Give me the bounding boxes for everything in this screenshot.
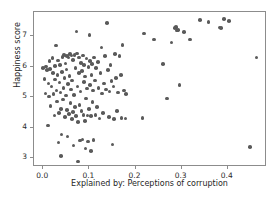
data-point bbox=[110, 79, 114, 83]
data-point bbox=[98, 117, 102, 121]
data-point bbox=[63, 76, 67, 80]
data-point bbox=[112, 117, 116, 121]
data-point bbox=[97, 86, 101, 90]
data-point bbox=[119, 73, 123, 77]
data-point bbox=[71, 58, 75, 62]
data-point bbox=[198, 18, 202, 22]
data-point bbox=[82, 63, 86, 67]
data-point bbox=[121, 43, 125, 47]
data-point bbox=[106, 68, 110, 72]
data-point bbox=[111, 143, 115, 147]
y-tick-mark bbox=[30, 127, 33, 128]
data-point bbox=[58, 63, 62, 67]
data-point bbox=[64, 94, 68, 98]
data-point bbox=[116, 91, 120, 95]
y-tick-mark bbox=[30, 157, 33, 158]
data-point bbox=[82, 113, 86, 117]
data-point bbox=[59, 154, 63, 158]
data-point bbox=[94, 66, 98, 70]
data-point bbox=[51, 56, 55, 60]
data-point bbox=[80, 69, 84, 73]
data-point bbox=[74, 66, 78, 70]
data-point bbox=[222, 17, 226, 21]
data-point bbox=[93, 79, 97, 83]
data-point bbox=[91, 89, 95, 93]
data-points-layer bbox=[34, 12, 265, 165]
data-point bbox=[99, 71, 103, 75]
data-point bbox=[72, 144, 76, 148]
data-point bbox=[92, 56, 96, 60]
data-point bbox=[73, 105, 77, 109]
data-point bbox=[227, 19, 231, 23]
data-point bbox=[94, 113, 98, 117]
x-tick-mark bbox=[88, 166, 89, 169]
data-point bbox=[67, 112, 71, 116]
data-point bbox=[89, 114, 93, 118]
plot-area bbox=[33, 11, 266, 166]
data-point bbox=[178, 83, 182, 87]
data-point bbox=[86, 140, 90, 144]
data-point bbox=[90, 62, 94, 66]
data-point bbox=[105, 21, 109, 25]
data-point bbox=[124, 92, 128, 96]
data-point bbox=[57, 141, 61, 145]
data-point bbox=[53, 78, 57, 82]
data-point bbox=[152, 38, 156, 42]
data-point bbox=[48, 59, 52, 63]
data-point bbox=[81, 138, 85, 142]
y-tick-label: 5 bbox=[22, 92, 27, 100]
data-point bbox=[87, 65, 91, 69]
data-point bbox=[75, 52, 79, 56]
data-point bbox=[64, 62, 68, 66]
data-point bbox=[69, 101, 73, 105]
data-point bbox=[76, 120, 80, 124]
data-point bbox=[70, 117, 74, 121]
y-tick-mark bbox=[30, 66, 33, 67]
data-point bbox=[124, 117, 128, 121]
data-point bbox=[66, 135, 70, 139]
data-point bbox=[62, 86, 66, 90]
data-point bbox=[142, 32, 146, 36]
data-point bbox=[65, 68, 69, 72]
data-point bbox=[60, 70, 64, 74]
data-point bbox=[53, 114, 57, 118]
data-point bbox=[71, 110, 75, 114]
data-point bbox=[75, 30, 79, 34]
data-point bbox=[85, 87, 89, 91]
data-point bbox=[87, 107, 91, 111]
data-point bbox=[170, 41, 174, 45]
data-point bbox=[83, 75, 87, 79]
data-point bbox=[100, 92, 104, 96]
data-point bbox=[46, 124, 50, 128]
data-point bbox=[96, 60, 100, 64]
data-point bbox=[88, 83, 92, 87]
data-point bbox=[66, 82, 70, 86]
data-point bbox=[107, 115, 111, 119]
data-point bbox=[255, 56, 259, 60]
data-point bbox=[59, 107, 63, 111]
data-point bbox=[182, 30, 186, 34]
x-tick-mark bbox=[42, 166, 43, 169]
data-point bbox=[56, 59, 60, 63]
data-point bbox=[118, 54, 122, 58]
data-point bbox=[207, 20, 211, 24]
data-point bbox=[165, 97, 169, 101]
data-point bbox=[61, 98, 65, 102]
data-point bbox=[91, 100, 95, 104]
data-point bbox=[114, 76, 118, 80]
data-point bbox=[81, 54, 85, 58]
data-point bbox=[102, 82, 106, 86]
data-point bbox=[51, 71, 55, 75]
data-point bbox=[90, 73, 94, 77]
data-point bbox=[83, 119, 87, 123]
y-tick-mark bbox=[30, 96, 33, 97]
data-point bbox=[78, 103, 82, 107]
data-point bbox=[95, 105, 99, 109]
data-point bbox=[219, 26, 223, 30]
data-point bbox=[101, 111, 105, 115]
scatter-chart-figure: 34567 0.00.10.20.30.4 Explained by: Perc… bbox=[0, 0, 279, 200]
data-point bbox=[84, 97, 88, 101]
x-axis-label: Explained by: Perceptions of corruption bbox=[33, 180, 266, 188]
data-point bbox=[76, 160, 80, 164]
data-point bbox=[141, 116, 145, 120]
